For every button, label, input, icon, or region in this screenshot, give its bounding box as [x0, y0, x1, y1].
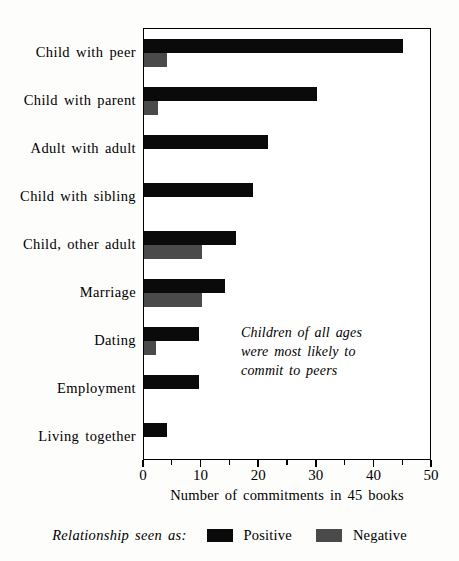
category-label: Living together — [0, 429, 136, 444]
bar-positive — [144, 279, 225, 293]
x-tick-major — [430, 460, 432, 467]
x-tick-minor — [171, 460, 172, 465]
legend-entries: PositiveNegative — [207, 527, 407, 544]
x-tick-major — [200, 460, 202, 467]
x-tick-major — [373, 460, 375, 467]
x-tick-label: 10 — [193, 468, 208, 483]
bar-negative — [144, 293, 202, 307]
category-axis-labels: Child with peerChild with parentAdult wi… — [0, 28, 136, 460]
legend-swatch — [207, 529, 233, 542]
legend-title: Relationship seen as: — [52, 527, 186, 544]
x-tick-major — [315, 460, 317, 467]
category-label: Child with peer — [0, 45, 136, 60]
annotation-line: Children of all ages — [241, 324, 406, 343]
category-label: Child, other adult — [0, 237, 136, 252]
legend-entry: Positive — [207, 527, 292, 544]
x-tick-label: 0 — [139, 468, 147, 483]
chart-annotation: Children of all ageswere most likely toc… — [241, 324, 406, 381]
category-label: Employment — [0, 381, 136, 396]
x-tick-minor — [344, 460, 345, 465]
bar-positive — [144, 231, 236, 245]
bar-positive — [144, 39, 403, 53]
annotation-line: were most likely to — [241, 343, 406, 362]
bar-negative — [144, 245, 202, 259]
bar-negative — [144, 53, 167, 67]
bar-positive — [144, 183, 253, 197]
category-label: Marriage — [0, 285, 136, 300]
bar-positive — [144, 135, 268, 149]
bar-positive — [144, 423, 167, 437]
plot-area: Children of all ageswere most likely toc… — [143, 28, 431, 460]
annotation-line: commit to peers — [241, 362, 406, 381]
bar-negative — [144, 101, 158, 115]
legend-label: Negative — [353, 527, 407, 544]
legend-label: Positive — [244, 527, 292, 544]
x-tick-minor — [286, 460, 287, 465]
category-label: Dating — [0, 333, 136, 348]
bar-chart-figure: Child with peerChild with parentAdult wi… — [0, 0, 459, 561]
bar-negative — [144, 341, 156, 355]
x-tick-label: 50 — [424, 468, 439, 483]
x-tick-minor — [402, 460, 403, 465]
bar-positive — [144, 87, 317, 101]
bar-positive — [144, 327, 199, 341]
bars-container — [144, 29, 430, 459]
x-tick-label: 20 — [251, 468, 266, 483]
x-tick-major — [257, 460, 259, 467]
x-tick-major — [142, 460, 144, 467]
legend-entry: Negative — [316, 527, 407, 544]
category-label: Adult with adult — [0, 141, 136, 156]
category-label: Child with sibling — [0, 189, 136, 204]
legend-swatch — [316, 529, 342, 542]
legend: Relationship seen as: PositiveNegative — [0, 522, 459, 548]
x-tick-minor — [229, 460, 230, 465]
category-label: Child with parent — [0, 93, 136, 108]
x-axis-title: Number of commitments in 45 books — [143, 487, 431, 504]
x-tick-label: 30 — [308, 468, 323, 483]
x-tick-label: 40 — [366, 468, 381, 483]
bar-positive — [144, 375, 199, 389]
